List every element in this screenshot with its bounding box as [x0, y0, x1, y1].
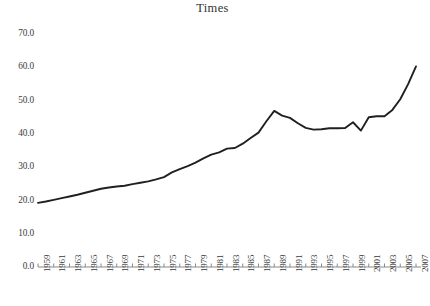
x-axis-tick-label: 2001: [372, 255, 382, 272]
x-axis-tick-label: 1993: [309, 255, 319, 272]
x-axis-tick-label: 2007: [420, 255, 430, 272]
x-axis-tick-label: 1981: [215, 255, 225, 272]
series-line: [38, 66, 416, 202]
x-axis-tick-label: 1995: [325, 255, 335, 272]
x-axis-tick-label: 1979: [199, 255, 209, 272]
x-axis-tick-label: 1999: [357, 255, 367, 272]
x-axis-tick-label: 1975: [168, 255, 178, 272]
x-axis-tick-label: 1967: [105, 255, 115, 272]
x-axis-tick-label: 1959: [42, 255, 52, 272]
x-axis-tick-label: 1973: [152, 255, 162, 272]
x-axis-tick-label: 1983: [231, 255, 241, 272]
x-axis-tick-label: 1985: [246, 255, 256, 272]
x-axis-tick-label: 1991: [294, 255, 304, 272]
x-axis-tick-label: 2003: [388, 255, 398, 272]
x-axis-tick-label: 1977: [183, 255, 193, 272]
x-axis-tick-label: 1965: [89, 255, 99, 272]
x-axis-tick-label: 1963: [73, 255, 83, 272]
x-axis-tick-label: 1971: [136, 255, 146, 272]
x-axis-tick-label: 1961: [57, 255, 67, 272]
x-axis-tick-label: 1987: [262, 255, 272, 272]
x-axis-tick-label: 1989: [278, 255, 288, 272]
x-axis-tick-label: 1969: [120, 255, 130, 272]
x-axis-tick-label: 1997: [341, 255, 351, 272]
x-axis-tick-label: 2005: [404, 255, 414, 272]
